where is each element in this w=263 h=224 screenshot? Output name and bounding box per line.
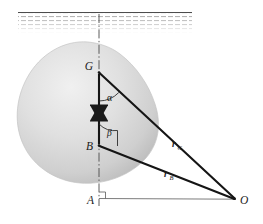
label-vector-rb-base: r (164, 169, 168, 179)
point-b-dot (98, 144, 101, 147)
mechanics-diagram: G B A O α β r G r B (0, 0, 263, 224)
point-o-dot (233, 198, 236, 201)
label-angle-beta: β (106, 128, 112, 138)
label-point-a: A (86, 194, 95, 206)
label-angle-alpha: α (107, 93, 112, 103)
label-vector-rg-subscript: G (178, 144, 183, 151)
label-point-g: G (85, 60, 94, 72)
label-point-b: B (86, 140, 93, 152)
label-vector-rb-subscript: B (170, 174, 174, 181)
label-point-o: O (240, 194, 249, 206)
label-vector-rg-base: r (172, 139, 176, 149)
surface-hatching-fade (18, 13, 192, 33)
surface-hatching-group (18, 13, 192, 34)
point-g-dot (98, 71, 101, 74)
